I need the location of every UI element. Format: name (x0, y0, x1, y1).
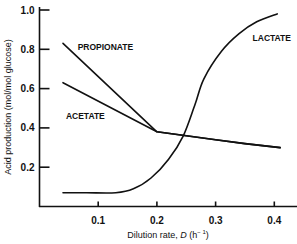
series-label-acetate: ACETATE (66, 111, 105, 121)
series-label-propionate: PROPIONATE (78, 42, 134, 52)
x-tick-label: 0.3 (209, 215, 223, 226)
y-ticks: 0.20.40.60.81.0 (21, 5, 50, 173)
x-axis-title-unit: (h (187, 230, 198, 240)
x-tick-label: 0.2 (150, 215, 164, 226)
x-axis-title-close: ) (206, 230, 209, 240)
x-ticks: 0.10.20.30.4 (91, 202, 281, 227)
x-axis-title: Dilution rate, D (h− 1) (127, 229, 209, 240)
x-tick-label: 0.4 (267, 215, 281, 226)
y-axis-title: Acid production (mol/mol glucose) (3, 39, 13, 175)
y-tick-label: 0.4 (21, 122, 35, 133)
series-label-lactate: LACTATE (253, 33, 292, 43)
y-tick-label: 1.0 (21, 5, 35, 16)
x-axis-title-prefix: Dilution rate, (127, 230, 180, 240)
series-labels: PROPIONATEACETATELACTATE (66, 33, 291, 122)
series-line-lactate (63, 14, 277, 193)
series-lines (63, 14, 280, 193)
series-line-propionate (63, 43, 280, 147)
x-tick-label: 0.1 (91, 215, 105, 226)
y-tick-label: 0.8 (21, 44, 35, 55)
y-tick-label: 0.2 (21, 162, 35, 173)
acid-production-chart: 0.20.40.60.81.0 0.10.20.30.4 PROPIONATEA… (0, 0, 297, 244)
y-tick-label: 0.6 (21, 83, 35, 94)
